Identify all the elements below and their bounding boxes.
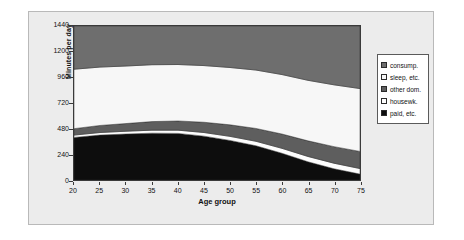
x-tick-mark xyxy=(309,182,310,185)
legend-item-label: housewk. xyxy=(390,98,417,105)
x-tick-label: 50 xyxy=(218,187,242,194)
legend-item-label: consump. xyxy=(390,62,418,69)
x-tick-label: 60 xyxy=(270,187,294,194)
y-tick-label: 720 xyxy=(39,99,69,107)
legend-item[interactable]: consump. xyxy=(381,59,425,71)
x-tick-mark xyxy=(204,182,205,185)
x-tick-mark xyxy=(152,182,153,185)
stacked-area-svg xyxy=(74,26,360,180)
y-tick-label: 240 xyxy=(39,151,69,159)
x-tick-mark xyxy=(178,182,179,185)
x-tick-mark xyxy=(73,182,74,185)
swatch-consump-icon xyxy=(381,62,387,68)
x-tick-mark xyxy=(256,182,257,185)
legend-item-label: other dom. xyxy=(390,86,421,93)
legend-item[interactable]: housewk. xyxy=(381,95,425,107)
legend-item[interactable]: sleep, etc. xyxy=(381,71,425,83)
legend-item[interactable]: paid, etc. xyxy=(381,107,425,119)
y-tick-label: 480 xyxy=(39,125,69,133)
figure-frame: Minutes per day 024048072096012001440 20… xyxy=(28,11,434,225)
y-axis-ticks: 024048072096012001440 xyxy=(37,25,69,181)
swatch-sleep-icon xyxy=(381,74,387,80)
x-tick-mark xyxy=(335,182,336,185)
x-tick-label: 25 xyxy=(87,187,111,194)
legend-item[interactable]: other dom. xyxy=(381,83,425,95)
x-tick-mark xyxy=(282,182,283,185)
swatch-housewk-icon xyxy=(381,98,387,104)
x-tick-mark xyxy=(230,182,231,185)
x-tick-label: 75 xyxy=(349,187,373,194)
x-tick-label: 40 xyxy=(166,187,190,194)
swatch-paid-icon xyxy=(381,110,387,116)
x-axis-title: Age group xyxy=(73,197,361,206)
y-tick-label: 1440 xyxy=(39,21,69,29)
x-tick-mark xyxy=(125,182,126,185)
x-tick-label: 45 xyxy=(192,187,216,194)
x-tick-label: 20 xyxy=(61,187,85,194)
x-tick-label: 70 xyxy=(323,187,347,194)
x-axis-ticks: 202530354045505560657075 xyxy=(73,182,361,196)
x-tick-mark xyxy=(99,182,100,185)
y-tick-label: 0 xyxy=(39,177,69,185)
legend: consump.sleep, etc.other dom.housewk.pai… xyxy=(377,54,429,124)
x-tick-label: 55 xyxy=(244,187,268,194)
swatch-other-dom-icon xyxy=(381,86,387,92)
legend-item-label: paid, etc. xyxy=(390,110,416,117)
x-tick-label: 65 xyxy=(297,187,321,194)
plot-area xyxy=(73,25,361,181)
y-tick-label: 960 xyxy=(39,73,69,81)
legend-item-label: sleep, etc. xyxy=(390,74,420,81)
y-tick-label: 1200 xyxy=(39,47,69,55)
chart-screenshot: Minutes per day 024048072096012001440 20… xyxy=(0,0,464,240)
x-tick-mark xyxy=(361,182,362,185)
x-tick-label: 35 xyxy=(140,187,164,194)
x-tick-label: 30 xyxy=(113,187,137,194)
